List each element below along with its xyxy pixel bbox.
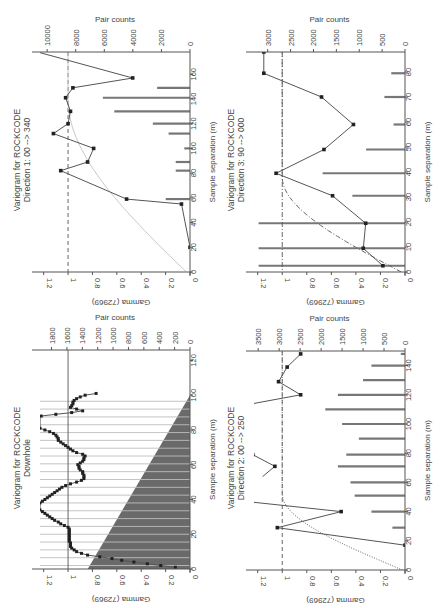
variogram-marker [52,132,56,136]
variogram-marker [37,505,40,508]
variogram-marker [251,453,255,457]
separation-tick-label: 140 [404,359,413,372]
pair-count-tick-label: 1400 [78,327,87,344]
pair-count-tick-label: 6000 [100,29,109,46]
variogram-marker [361,246,365,250]
separation-tick-label: 60 [404,478,413,486]
pair-count-tick-label: 1500 [332,29,341,46]
variogram-marker [274,171,278,175]
separation-axis-label: Sample separation (m) [423,121,432,202]
variogram-marker [37,418,40,421]
separation-axis-label: Sample separation (m) [423,420,432,501]
variogram-marker [381,264,385,268]
variogram-marker [262,71,266,75]
chart-subtitle: Downhole [22,439,32,477]
gamma-tick-label: 0.2 [167,278,176,288]
separation-tick-label: 20 [404,537,413,545]
gamma-tick-label: 0.8 [93,278,102,288]
variogram-marker [84,394,87,397]
variogram-marker [37,420,40,423]
pair-count-tick-label: 600 [140,331,149,344]
pair-count-tick-label: 500 [380,332,389,345]
gamma-axis-label: Gamma (72969) [92,595,151,604]
pair-count-axis-label: Pair counts [309,314,349,323]
pair-count-tick-label: 0 [186,340,195,344]
variogram-marker [64,96,68,100]
variogram-marker [75,451,78,454]
separation-tick-label: 20 [189,530,198,538]
separation-tick-label: 80 [189,169,198,177]
gamma-tick-label: 0.8 [308,278,317,288]
variogram-marker [320,95,324,99]
model-curve [282,52,401,272]
pair-count-tick-label: 1600 [63,327,72,344]
separation-tick-label: 100 [189,142,198,155]
chart-subtitle: Direction 3: 90 --> 000 [236,118,246,203]
variogram-marker [159,564,162,567]
variogram-marker [86,160,90,164]
variogram-marker [285,365,289,369]
variogram-marker [276,526,280,530]
gamma-tick-label: 0.4 [357,278,366,288]
pair-count-tick-label: 400 [155,331,164,344]
gamma-tick-label: 0.8 [93,575,102,585]
pair-count-tick-label: 0 [401,341,410,345]
variogram-marker [71,86,75,90]
panel-title: Variogram for ROCKCODEDownhole [12,407,32,510]
pair-count-tick-label: 1200 [94,327,103,344]
panel-direction-3: Variogram for ROCKCODEDirection 3: 90 --… [226,15,432,307]
pair-count-tick-label: 1800 [48,327,57,344]
variogram-marker [174,566,177,569]
separation-tick-label: 40 [404,168,413,176]
gamma-tick-label: 0.2 [381,278,390,288]
variogram-marker [59,169,63,173]
pair-count-tick-label: 500 [378,33,387,46]
separation-tick-label: 80 [189,426,198,434]
variogram-marker [37,503,40,506]
pair-count-tick-label: 4000 [129,29,138,46]
pair-count-tick-label: 3000 [275,328,284,345]
gamma-tick-label: 0 [406,278,415,282]
variogram-marker [125,197,129,201]
gamma-tick-label: 0 [406,576,415,580]
variogram-marker [132,561,135,564]
gamma-tick-label: 0.2 [381,576,390,586]
variogram-marker [81,453,84,456]
variogram-marker [299,393,303,397]
pair-count-tick-label: 2000 [157,29,166,46]
variogram-marker [75,408,78,411]
variogram-marker [95,392,98,395]
separation-tick-label: 60 [189,461,198,469]
gamma-tick-label: 1 [69,575,78,579]
pair-count-tick-label: 1000 [109,327,118,344]
variogram-marker [48,430,51,433]
variogram-marker [63,524,66,527]
pair-count-tick-label: 1000 [355,29,364,46]
variogram-marker [120,559,123,562]
panel-downhole: Variogram for ROCKCODEDownhole00.20.40.6… [12,313,217,604]
gamma-tick-label: 0.4 [142,278,151,288]
chart-title: Variogram for ROCKCODE [12,109,22,212]
variogram-figure: Variogram for ROCKCODEDirection 1: 00 --… [0,0,440,608]
variogram-marker [64,484,67,487]
pair-count-tick-label: 3000 [264,29,273,46]
separation-tick-label: 120 [404,389,413,402]
variogram-marker [52,432,55,435]
variogram-marker [69,482,72,485]
gamma-axis-label: Gamma (72969) [92,298,151,307]
variogram-series [245,352,406,547]
gamma-tick-label: 0.4 [142,575,151,585]
variogram-marker [299,352,303,356]
variogram-marker [322,148,326,152]
variogram-marker [37,422,40,425]
chart-title: Variogram for ROCKCODE [226,109,236,212]
variogram-line [264,52,383,266]
pair-count-tick-label: 3500 [254,328,263,345]
variogram-marker [339,510,343,514]
pair-counts-series [325,354,405,528]
variogram-marker [331,194,335,198]
axes: 00.20.40.60.811.2Gamma (72969)0102030405… [246,15,432,307]
separation-tick-label: 30 [404,193,413,201]
panel-title: Variogram for ROCKCODEDirection 2: 00 --… [226,407,246,510]
variogram-marker [277,380,281,384]
